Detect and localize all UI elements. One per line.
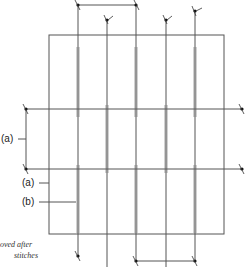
stitch-run	[134, 48, 138, 116]
stitch-run	[76, 48, 80, 116]
thread-tail	[108, 16, 113, 20]
thread-tail	[196, 8, 202, 11]
stitch-diagram: (a) (a) (b) oved after stitches	[0, 0, 245, 267]
label-a-inner: (a)	[22, 177, 34, 188]
label-a-outer: (a)	[1, 133, 13, 144]
note-line-2: stitches	[14, 251, 38, 260]
note-line-1: oved after	[0, 240, 33, 249]
thread-ends	[23, 0, 244, 266]
thread-tail	[167, 16, 172, 20]
label-b: (b)	[22, 196, 34, 207]
stitch-run	[193, 48, 197, 116]
